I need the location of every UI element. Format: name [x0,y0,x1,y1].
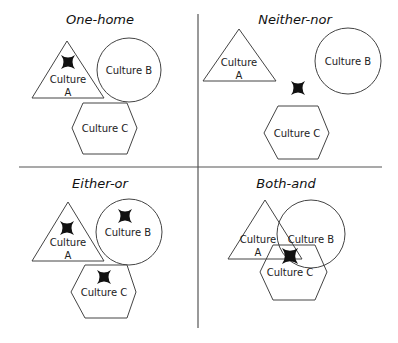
culture-a-label-line1: Culture [50,74,86,85]
culture-c-label: Culture C [82,123,129,134]
quadrant-one-home: One-home Culture A Culture B Culture C [32,12,161,154]
culture-a-label-line2: A [255,247,262,258]
culture-b-label: Culture B [288,234,335,245]
culture-b-label: Culture B [325,56,372,67]
culture-b-label: Culture B [105,227,152,238]
culture-b-label: Culture B [106,65,153,76]
culture-c-label: Culture C [267,267,314,278]
quadrant-both-and: Both-and Culture A Culture B Culture C [228,176,345,300]
diagram-canvas: One-home Culture A Culture B Culture C N… [0,0,398,343]
quadrant-either-or: Either-or Culture A Culture B Culture C [32,176,162,318]
quadrant-title: Both-and [256,176,316,191]
culture-a-label-line2: A [236,70,243,81]
culture-c-label: Culture C [274,128,321,139]
culture-a-triangle [228,200,302,259]
culture-a-label-line1: Culture [221,57,257,68]
culture-c-label: Culture C [81,287,128,298]
culture-a-label-line1: Culture [50,237,86,248]
culture-a-label-line2: A [65,250,72,261]
quadrant-title: One-home [66,12,134,27]
culture-a-label-line2: A [65,87,72,98]
quadrant-title: Either-or [72,176,129,191]
quadrant-neither-nor: Neither-nor Culture A Culture B Culture … [203,12,381,159]
person-x-mark-icon [291,81,305,95]
quadrant-title: Neither-nor [258,12,333,27]
person-x-mark-icon [282,248,298,264]
culture-a-label-line1: Culture [240,234,276,245]
